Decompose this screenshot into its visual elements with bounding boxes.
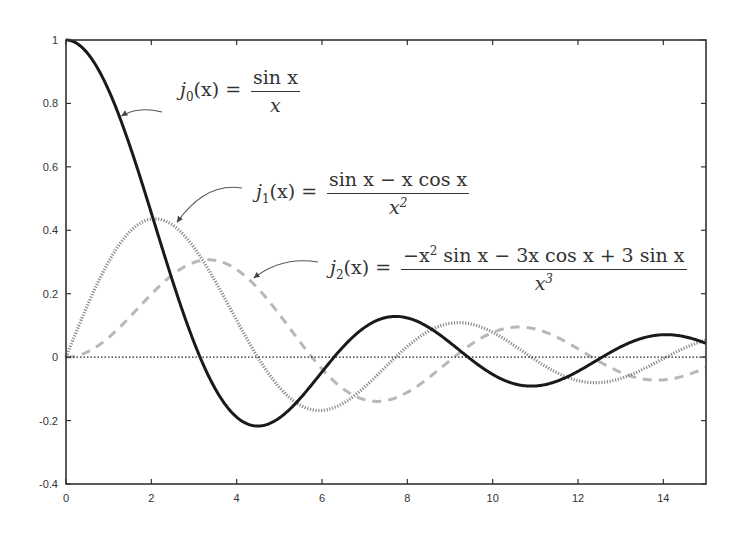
x-tick-label: 12 (572, 492, 584, 504)
x-tick-label: 6 (319, 492, 325, 504)
y-tick-label: 0.4 (43, 224, 58, 236)
x-tick-label: 0 (63, 492, 69, 504)
x-tick-label: 4 (234, 492, 240, 504)
annotation-j2: j2(x) = −x2 sin x − 3x cos x + 3 sin x x… (330, 244, 687, 295)
x-tick-label: 2 (148, 492, 154, 504)
fraction-j2: −x2 sin x − 3x cos x + 3 sin x x3 (401, 244, 687, 295)
y-tick-label: 0.6 (43, 161, 58, 173)
arrow-icon (177, 187, 242, 222)
y-tick-label: 0.8 (43, 97, 58, 109)
annotation-j1: j1(x) = sin x − x cos x x2 (256, 168, 469, 218)
y-tick-label: 1 (52, 34, 58, 46)
y-tick-label: -0.4 (39, 478, 58, 490)
x-tick-label: 8 (404, 492, 410, 504)
x-tick-label: 10 (487, 492, 499, 504)
annotation-j0: j0(x) = sin x x (180, 66, 300, 116)
curves (66, 40, 706, 426)
arrow-icon (121, 110, 162, 116)
fraction-j1: sin x − x cos x x2 (327, 168, 469, 218)
x-tick-label: 14 (657, 492, 669, 504)
y-tick-label: -0.2 (39, 415, 58, 427)
fraction-j0: sin x x (251, 66, 300, 116)
y-tick-label: 0.2 (43, 288, 58, 300)
arrow-icon (254, 261, 318, 278)
y-tick-label: 0 (52, 351, 58, 363)
